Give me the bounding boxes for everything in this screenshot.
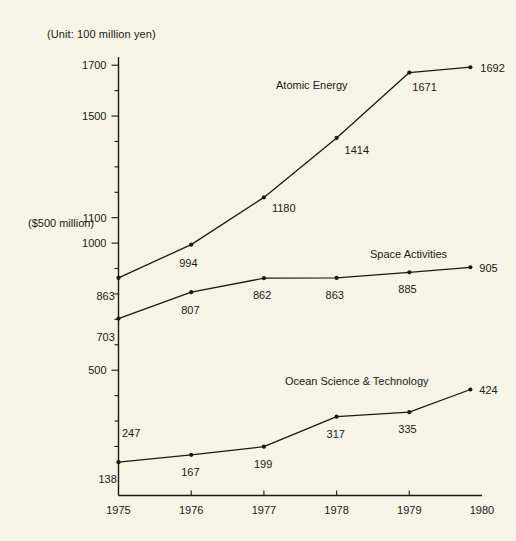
- point-label-layer: 8639941180141416711692703807862863885905…: [97, 62, 505, 485]
- data-point-label: 885: [398, 283, 416, 295]
- data-point-marker: [335, 276, 339, 280]
- data-point-label: 199: [254, 458, 272, 470]
- x-axis-tick-labels: 197519761977197819791980: [106, 504, 494, 516]
- data-point-label: 863: [97, 290, 115, 302]
- series-label-space: Space Activities: [370, 248, 448, 260]
- data-point-label: 1180: [272, 202, 296, 214]
- data-point-marker: [468, 65, 472, 69]
- line-chart: (Unit: 100 million yen) ($500 million) 1…: [0, 0, 516, 541]
- data-point-label: 703: [97, 331, 115, 343]
- data-point-marker: [189, 243, 193, 247]
- data-point-marker: [189, 290, 193, 294]
- data-point-marker: [407, 70, 411, 74]
- data-point-marker: [262, 195, 266, 199]
- x-tick-label: 1976: [179, 504, 203, 516]
- data-point-label: 807: [181, 304, 199, 316]
- x-axis: 197519761977197819791980: [106, 491, 494, 516]
- data-point-label: 167: [181, 466, 199, 478]
- data-point-marker: [262, 276, 266, 280]
- data-point-marker: [407, 270, 411, 274]
- data-point-marker: [335, 136, 339, 140]
- y-axis-tick-labels: 1700150011001000500: [82, 59, 106, 376]
- data-point-marker: [468, 265, 472, 269]
- data-point-label: 424: [479, 384, 497, 396]
- data-point-label: 1692: [480, 62, 504, 74]
- data-point-label: 905: [479, 262, 497, 274]
- data-point-label: 138: [99, 473, 117, 485]
- data-point-marker: [116, 317, 120, 321]
- series-line-ocean: [119, 390, 471, 463]
- series-line-atomic: [119, 67, 471, 278]
- data-point-label: 1671: [412, 81, 436, 93]
- data-point-marker: [116, 460, 120, 464]
- x-tick-label: 1978: [324, 504, 348, 516]
- data-point-marker: [335, 415, 339, 419]
- series-label-ocean: Ocean Science & Technology: [285, 375, 429, 387]
- y-tick-label: 1500: [82, 110, 106, 122]
- data-point-marker: [468, 387, 472, 391]
- x-tick-label: 1980: [470, 504, 494, 516]
- data-point-label: 863: [326, 289, 344, 301]
- data-point-label: 335: [398, 423, 416, 435]
- series-label-atomic: Atomic Energy: [276, 79, 348, 91]
- x-tick-label: 1975: [106, 504, 130, 516]
- y-tick-label: 1700: [82, 59, 106, 71]
- series-layer: [116, 65, 472, 464]
- data-point-label: 994: [179, 257, 197, 269]
- data-point-label: 1414: [345, 144, 369, 156]
- x-axis-ticks: [191, 491, 409, 496]
- data-point-marker: [116, 276, 120, 280]
- series-line-space: [119, 267, 471, 318]
- data-point-marker: [407, 410, 411, 414]
- floating-label-layer: 247: [122, 427, 140, 439]
- chart-canvas: 1700150011001000500 19751976197719781979…: [0, 0, 516, 541]
- data-point-marker: [189, 453, 193, 457]
- y-tick-label: 500: [88, 364, 106, 376]
- data-point-label: 862: [253, 289, 271, 301]
- y-axis: 1700150011001000500: [82, 57, 118, 496]
- y-axis-ticks: [112, 65, 119, 446]
- data-point-label: 317: [327, 428, 345, 440]
- y-tick-label: 1100: [83, 212, 107, 224]
- floating-value-247: 247: [122, 427, 140, 439]
- data-point-marker: [262, 445, 266, 449]
- series-label-layer: Atomic EnergySpace ActivitiesOcean Scien…: [276, 79, 448, 387]
- x-tick-label: 1977: [252, 504, 276, 516]
- y-tick-label: 1000: [82, 237, 106, 249]
- x-tick-label: 1979: [397, 504, 421, 516]
